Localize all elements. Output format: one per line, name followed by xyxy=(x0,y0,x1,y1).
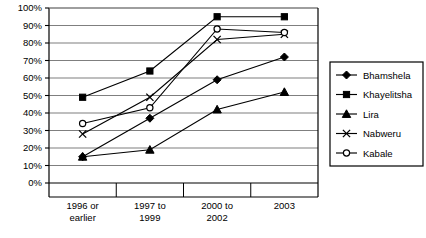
data-point xyxy=(146,94,153,101)
legend-marker xyxy=(343,150,349,156)
x-tick-label-line: 1997 to xyxy=(134,200,166,211)
series-khayelitsha xyxy=(80,14,288,101)
data-point xyxy=(79,130,86,137)
legend-label: Nabweru xyxy=(363,128,401,139)
y-tick-label: 20% xyxy=(23,142,43,153)
x-tick-label-line: 1999 xyxy=(139,212,160,223)
x-tick-label-line: 2003 xyxy=(274,200,295,211)
data-point xyxy=(281,14,287,20)
x-axis-labels: 1996 orearlier1997 to19992000 to20022003 xyxy=(67,200,295,223)
x-tick-label-line: earlier xyxy=(69,212,95,223)
y-tick-label: 40% xyxy=(23,107,43,118)
data-point xyxy=(80,120,86,126)
y-tick-label: 50% xyxy=(23,90,43,101)
y-tick-label: 90% xyxy=(23,20,43,31)
series-line xyxy=(83,34,285,134)
data-point xyxy=(213,76,221,84)
data-point xyxy=(281,29,287,35)
series-kabale xyxy=(80,26,288,127)
data-point xyxy=(80,94,86,100)
legend-marker xyxy=(343,91,349,97)
line-chart: 0%10%20%30%40%50%60%70%80%90%100%1996 or… xyxy=(0,0,426,238)
series-line xyxy=(83,92,285,157)
x-tick-label: 1997 to1999 xyxy=(134,200,166,223)
data-point xyxy=(146,114,154,122)
y-tick-label: 0% xyxy=(28,177,42,188)
legend-label: Kabale xyxy=(363,148,393,159)
y-tick-label: 70% xyxy=(23,55,43,66)
y-tick-label: 80% xyxy=(23,37,43,48)
y-tick-label: 30% xyxy=(23,125,43,136)
x-tick-label: 2003 xyxy=(274,200,295,211)
y-tick-label: 100% xyxy=(18,2,43,13)
x-tick-label-line: 2000 to xyxy=(201,200,233,211)
x-tick-label: 2000 to2002 xyxy=(201,200,233,223)
x-tick-label-line: 2002 xyxy=(207,212,228,223)
series-line xyxy=(83,17,285,98)
data-point xyxy=(280,53,288,61)
x-tick-label: 1996 orearlier xyxy=(67,200,99,223)
y-tick-label: 60% xyxy=(23,72,43,83)
legend: BhamshelaKhayelitshaLiraNabweruKabale xyxy=(330,62,423,166)
data-point xyxy=(214,26,220,32)
data-point xyxy=(147,105,153,111)
data-point xyxy=(280,88,288,96)
data-point xyxy=(147,68,153,74)
series-group xyxy=(78,14,288,161)
chart-canvas: 0%10%20%30%40%50%60%70%80%90%100%1996 or… xyxy=(0,0,426,238)
y-tick-label: 10% xyxy=(23,160,43,171)
legend-label: Lira xyxy=(363,109,380,120)
x-tick-label-line: 1996 or xyxy=(67,200,99,211)
legend-label: Khayelitsha xyxy=(363,89,413,100)
series-nabweru xyxy=(79,31,288,138)
axes xyxy=(45,8,318,197)
series-line xyxy=(83,57,285,157)
data-point xyxy=(146,146,154,154)
data-point xyxy=(214,14,220,20)
y-axis-labels: 0%10%20%30%40%50%60%70%80%90%100% xyxy=(18,2,43,188)
legend-label: Bhamshela xyxy=(363,70,411,81)
